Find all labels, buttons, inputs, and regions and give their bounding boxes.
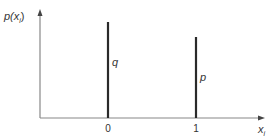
- tick-label-1: 1: [193, 123, 199, 134]
- y-axis-label-close: ): [21, 10, 25, 22]
- tick-label-0: 0: [105, 123, 111, 134]
- y-axis-label-base: p(x: [3, 10, 20, 22]
- y-axis-arrow-icon: [38, 9, 43, 16]
- chart: q p 0 1 p(xi) xi: [0, 0, 271, 140]
- bar-label-p: p: [199, 71, 206, 83]
- x-axis-arrow-icon: [258, 116, 265, 121]
- bar-label-q: q: [112, 56, 119, 68]
- x-axis-label-sub: i: [264, 130, 266, 137]
- y-axis-label: p(xi): [3, 10, 25, 24]
- x-axis-label: xi: [257, 123, 266, 137]
